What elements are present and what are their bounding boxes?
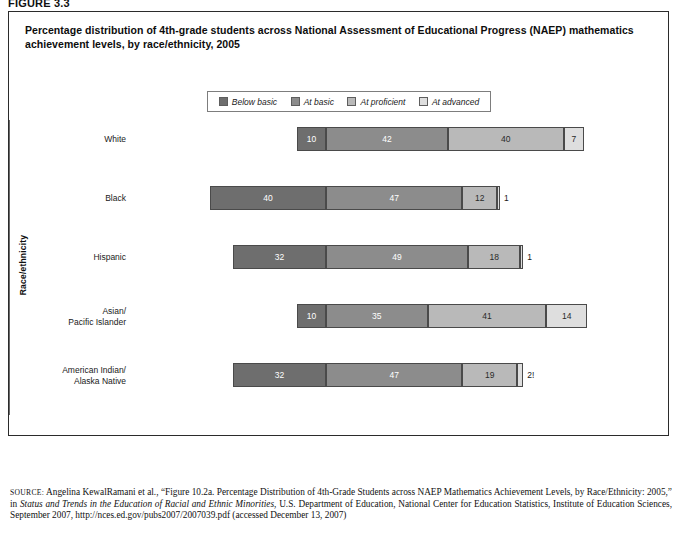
bar-segment-at-basic: 42 <box>326 127 448 151</box>
bar-track: 1042407 <box>9 127 670 151</box>
bar-segment-below-basic: 32 <box>233 363 326 387</box>
chart-row: Hispanic3249181 <box>9 242 670 272</box>
bar-track: 10354114 <box>9 304 670 328</box>
chart-row: Black4047121 <box>9 183 670 213</box>
bar-value-outside: 1 <box>527 245 532 269</box>
bar-track: 3249181 <box>9 245 670 269</box>
bar-segment-at-advanced <box>497 186 500 210</box>
figure-number: FIGURE 3.3 <box>8 0 70 9</box>
plot-area: Race/ethnicity White1042407Black4047121H… <box>9 12 670 437</box>
bar-segment-at-proficient: 40 <box>448 127 564 151</box>
bar-segment-at-advanced: 14 <box>546 304 587 328</box>
bar-segment-at-proficient: 18 <box>468 245 520 269</box>
bar-segment-at-basic: 47 <box>326 186 462 210</box>
bar-segment-at-basic: 49 <box>326 245 468 269</box>
bar-segment-at-advanced <box>517 363 523 387</box>
figure-source: source: Angelina KewalRamani et al., “Fi… <box>10 487 672 522</box>
figure-panel: Percentage distribution of 4th-grade stu… <box>8 11 669 436</box>
chart-row: Asian/Pacific Islander10354114 <box>9 301 670 331</box>
source-publication-title: Status and Trends in the Education of Ra… <box>20 499 274 509</box>
bar-segment-below-basic: 32 <box>233 245 326 269</box>
bar-segment-at-basic: 47 <box>326 363 462 387</box>
source-label: source: <box>10 488 44 497</box>
bar-segment-at-advanced: 7 <box>564 127 584 151</box>
bar-value-outside: 2! <box>527 363 534 387</box>
chart-row: White1042407 <box>9 124 670 154</box>
bar-segment-below-basic: 10 <box>297 127 326 151</box>
bar-segment-at-advanced <box>520 245 523 269</box>
bar-segment-at-proficient: 19 <box>462 363 517 387</box>
chart-row: American Indian/Alaska Native3247192! <box>9 360 670 390</box>
bar-track: 3247192! <box>9 363 670 387</box>
bar-segment-at-proficient: 12 <box>462 186 497 210</box>
bar-segment-below-basic: 10 <box>297 304 326 328</box>
bar-segment-at-proficient: 41 <box>428 304 547 328</box>
bar-value-outside: 1 <box>504 186 509 210</box>
bar-segment-below-basic: 40 <box>210 186 326 210</box>
bar-segment-at-basic: 35 <box>326 304 428 328</box>
bar-track: 4047121 <box>9 186 670 210</box>
